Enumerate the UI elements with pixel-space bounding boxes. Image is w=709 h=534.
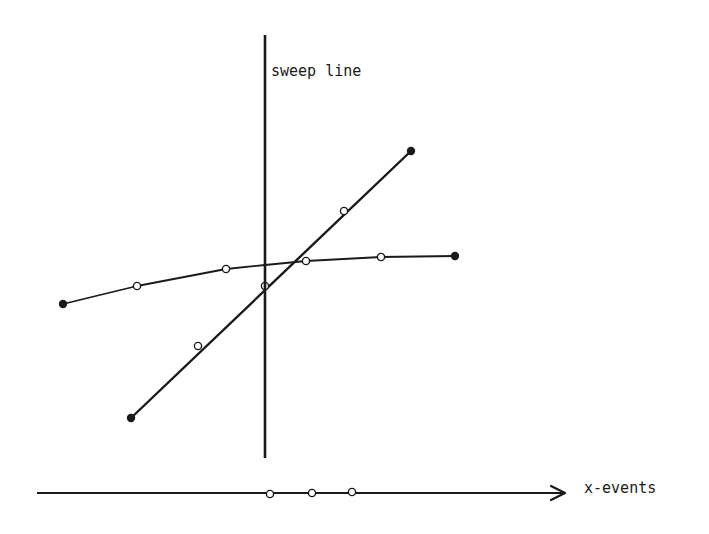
endpoint-dot-icon [59,300,67,308]
event-point-icon [377,253,384,260]
endpoint-dot-icon [127,414,135,422]
sweep-line-label: sweep line [271,62,361,80]
x-event-marker-icon [266,490,273,497]
endpoint-dot-icon [407,147,415,155]
segments-layer [59,147,459,422]
sweep-line-diagram [0,0,709,534]
event-point-icon [222,265,229,272]
event-point-icon [133,282,140,289]
diagonal-segment [131,151,411,418]
event-point-icon [302,257,309,264]
endpoint-dot-icon [451,252,459,260]
x-event-marker-icon [348,488,355,495]
x-event-marker-icon [308,489,315,496]
event-point-icon [340,207,347,214]
event-point-icon [194,342,201,349]
x-events-axis [37,486,565,500]
x-events-label: x-events [584,479,656,497]
